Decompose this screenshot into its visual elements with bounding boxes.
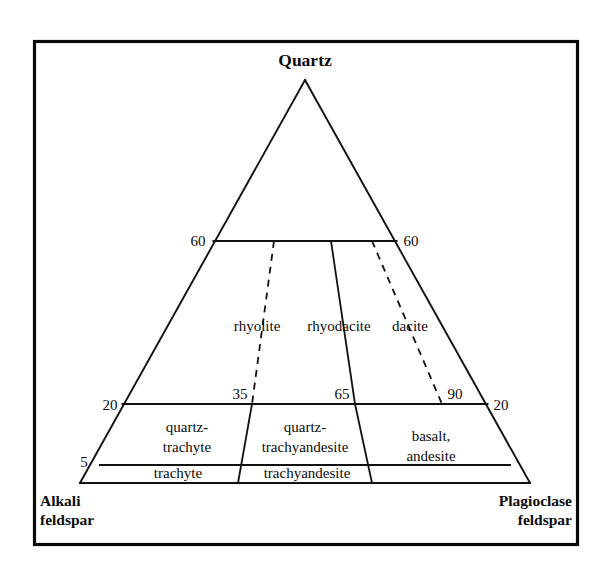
field-label-dacite: dacite <box>392 318 428 334</box>
field-label-trachyte: trachyte <box>154 465 203 481</box>
tick-label-plag-90: 90 <box>448 386 463 402</box>
tick-label-plag-35: 35 <box>233 386 248 402</box>
field-label-basalt-andesite-line2: andesite <box>406 448 455 464</box>
field-label-rhyolite: rhyolite <box>234 318 281 334</box>
corner-label-plagioclase-line2: feldspar <box>518 511 572 528</box>
field-label-rhyodacite: rhyodacite <box>307 318 371 334</box>
field-label-basalt-andesite-line1: basalt, <box>412 428 451 444</box>
tick-label-quartz-60-right: 60 <box>404 233 419 249</box>
tick-label-quartz-20-right: 20 <box>494 397 509 413</box>
field-label-quartz-trachyte-line1: quartz- <box>166 419 208 435</box>
tick-label-quartz-20-left: 20 <box>103 397 118 413</box>
corner-label-plagioclase-line1: Plagioclase <box>499 492 572 509</box>
field-label-quartz-trachyandesite-line2: trachyandesite <box>262 439 349 455</box>
qap-volcanic-ternary-svg: Quartz Alkali feldspar Plagioclase felds… <box>0 0 610 571</box>
ternary-diagram-figure: Quartz Alkali feldspar Plagioclase felds… <box>0 0 610 571</box>
tick-label-quartz-5-left: 5 <box>80 454 88 470</box>
tick-label-quartz-60-left: 60 <box>191 233 206 249</box>
corner-label-alkali-line1: Alkali <box>40 492 81 509</box>
corner-label-alkali-line2: feldspar <box>40 511 94 528</box>
field-label-trachyandesite: trachyandesite <box>264 465 351 481</box>
tick-label-plag-65: 65 <box>335 386 350 402</box>
field-label-quartz-trachyte-line2: trachyte <box>163 439 212 455</box>
apex-label-quartz: Quartz <box>278 50 332 70</box>
field-label-quartz-trachyandesite-line1: quartz- <box>284 419 326 435</box>
